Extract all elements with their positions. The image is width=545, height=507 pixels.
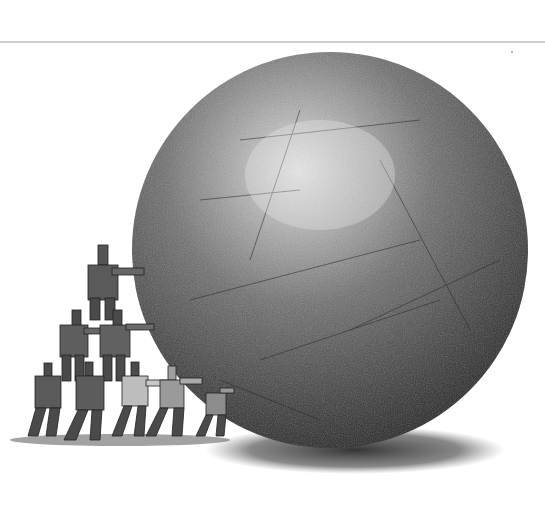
illustration-scene [0,0,545,507]
giant-ball [130,50,530,450]
figure-bottom-1 [28,363,61,436]
